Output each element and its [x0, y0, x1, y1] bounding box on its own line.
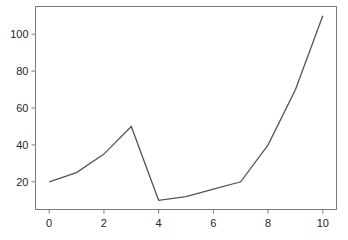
x-tick-label: 8	[265, 217, 271, 229]
y-tick-label: 100	[10, 28, 28, 40]
y-tick-label: 20	[16, 176, 28, 188]
x-axis: 0246810	[46, 210, 329, 229]
x-tick-label: 0	[46, 217, 52, 229]
x-tick-label: 2	[101, 217, 107, 229]
axes-frame	[36, 7, 337, 210]
y-tick-label: 60	[16, 102, 28, 114]
y-tick-label: 40	[16, 139, 28, 151]
plot-area	[49, 16, 323, 201]
x-tick-label: 6	[210, 217, 216, 229]
x-tick-label: 10	[317, 217, 329, 229]
x-tick-label: 4	[156, 217, 162, 229]
y-tick-label: 80	[16, 65, 28, 77]
data-line	[49, 16, 323, 201]
line-chart: 0246810 20406080100	[0, 0, 348, 240]
y-axis: 20406080100	[10, 28, 35, 188]
